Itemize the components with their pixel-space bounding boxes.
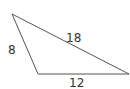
side-label-left: 8 bbox=[8, 43, 16, 57]
triangle-diagram: 8 18 12 bbox=[0, 0, 130, 89]
side-label-base: 12 bbox=[69, 76, 84, 89]
side-label-hypotenuse: 18 bbox=[66, 31, 81, 45]
